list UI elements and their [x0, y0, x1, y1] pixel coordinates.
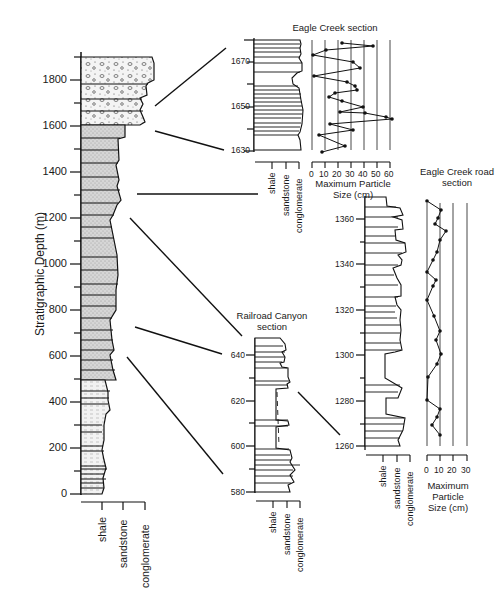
- eagle-creek-lithology-conglomerate: conglomerate: [294, 178, 304, 233]
- tick-label: 600: [231, 441, 245, 451]
- railroad-canyon-section: [246, 338, 300, 508]
- tick-label: 1000: [43, 257, 67, 269]
- road-lithology-sandstone: sandstone: [392, 467, 402, 509]
- title-line: Railroad Canyon: [232, 310, 312, 321]
- tick-label: 600: [49, 349, 67, 361]
- axis-label-line: Maximum Particle: [308, 178, 398, 189]
- tick-label: 0: [424, 465, 429, 475]
- eagle-creek-road-section: [356, 196, 467, 462]
- tick-label: 1600: [43, 119, 67, 131]
- road-lithology-conglomerate: conglomerate: [405, 471, 415, 526]
- tick-label: 30: [461, 465, 470, 475]
- connector-lines: [127, 48, 340, 474]
- tick-label: 1360: [335, 214, 354, 224]
- railroad-lithology-shale: shale: [268, 511, 278, 533]
- tick-label: 1300: [335, 350, 354, 360]
- tick-label: 200: [49, 441, 67, 453]
- main-column: [70, 52, 154, 510]
- tick-label: 580: [231, 487, 245, 497]
- tick-label: 1800: [43, 73, 67, 85]
- axis-label-line: Maximum: [420, 480, 476, 491]
- tick-label: 400: [49, 395, 67, 407]
- eagle-creek-lithology-shale: shale: [267, 172, 277, 194]
- main-lithology-axis: [81, 502, 145, 510]
- eagle-creek-particle-axis-label: Maximum Particle Size (cm): [308, 178, 398, 200]
- eagle-creek-section: [244, 38, 394, 169]
- eagle-creek-road-particle-line: [427, 201, 446, 435]
- main-lithology-shale: shale: [96, 517, 108, 542]
- main-depth-ticks: [70, 57, 81, 494]
- tick-label: 0: [61, 487, 67, 499]
- road-lithology-shale: shale: [378, 465, 388, 487]
- title-line: Eagle Creek road: [410, 166, 504, 177]
- tick-label: 1400: [43, 165, 67, 177]
- eagle-creek-title: Eagle Creek section: [280, 22, 390, 33]
- tick-label: 1260: [335, 441, 354, 451]
- tick-label: 620: [231, 396, 245, 406]
- axis-label-line: Size (cm): [420, 502, 476, 513]
- eagle-creek-road-particle-axis-label: Maximum Particle Size (cm): [420, 480, 476, 513]
- main-lithology-conglomerate: conglomerate: [139, 524, 151, 588]
- eagle-creek-lithology-sandstone: sandstone: [281, 174, 291, 216]
- tick-label: 800: [49, 303, 67, 315]
- tick-label: 1280: [335, 396, 354, 406]
- title-line: section: [232, 321, 312, 332]
- tick-label: 1630: [231, 145, 250, 155]
- title-line: section: [410, 177, 504, 188]
- main-lithology-sandstone: sandstone: [117, 520, 129, 568]
- tick-label: 1200: [43, 211, 67, 223]
- tick-label: 1650: [231, 101, 250, 111]
- tick-label: 1320: [335, 305, 354, 315]
- tick-label: 640: [231, 350, 245, 360]
- tick-label: 10: [434, 465, 443, 475]
- axis-label-line: Size (cm): [308, 189, 398, 200]
- railroad-lithology-sandstone: sandstone: [282, 513, 292, 555]
- tick-label: 20: [447, 465, 456, 475]
- eagle-creek-road-title: Eagle Creek road section: [410, 166, 504, 188]
- railroad-canyon-title: Railroad Canyon section: [232, 310, 312, 332]
- tick-label: 1670: [231, 56, 250, 66]
- tick-label: 1340: [335, 259, 354, 269]
- axis-label-line: Particle: [420, 491, 476, 502]
- railroad-lithology-conglomerate: conglomerate: [295, 517, 305, 572]
